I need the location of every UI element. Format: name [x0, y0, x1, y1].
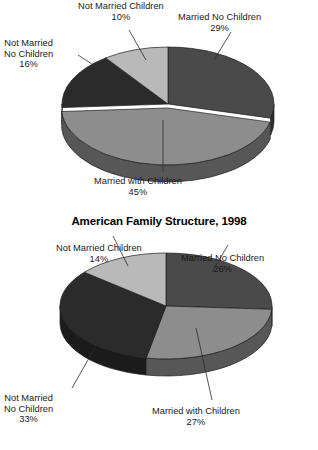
label-percent: 29% [178, 23, 261, 34]
pie-chart-top: Married No Children 29% Not Married Chil… [0, 0, 318, 205]
label-text-line1: Not Married [4, 38, 53, 49]
pie-chart-top-graphic [0, 0, 318, 205]
label-text: Not Married Children [56, 243, 142, 254]
label-married-no-children-top: Married No Children 29% [178, 12, 261, 33]
label-text: Married with Children [94, 176, 182, 187]
label-text-line2: No Children [4, 404, 53, 415]
label-percent: 33% [4, 414, 53, 425]
label-percent: 45% [94, 187, 182, 198]
label-not-married-no-children-bottom: Not Married No Children 33% [4, 393, 53, 425]
label-percent: 27% [152, 417, 240, 428]
label-percent: 10% [78, 12, 164, 23]
pie-chart-bottom: American Family Structure, 1998 Married … [0, 210, 318, 450]
label-married-with-children-top: Married with Children 45% [94, 176, 182, 197]
label-text: Married No Children [178, 12, 261, 23]
label-text: Married with Children [152, 406, 240, 417]
label-percent: 14% [56, 254, 142, 265]
label-text: Not Married Children [78, 1, 164, 12]
label-not-married-children-bottom: Not Married Children 14% [56, 243, 142, 264]
label-percent: 16% [4, 59, 53, 70]
label-text: Married No Children [181, 253, 264, 264]
label-not-married-no-children-top: Not Married No Children 16% [4, 38, 53, 70]
label-married-with-children-bottom: Married with Children 27% [152, 406, 240, 427]
label-text-line1: Not Married [4, 393, 53, 404]
label-not-married-children-top: Not Married Children 10% [78, 1, 164, 22]
label-percent: 26% [181, 264, 264, 275]
label-married-no-children-bottom: Married No Children 26% [181, 253, 264, 274]
label-text-line2: No Children [4, 49, 53, 60]
